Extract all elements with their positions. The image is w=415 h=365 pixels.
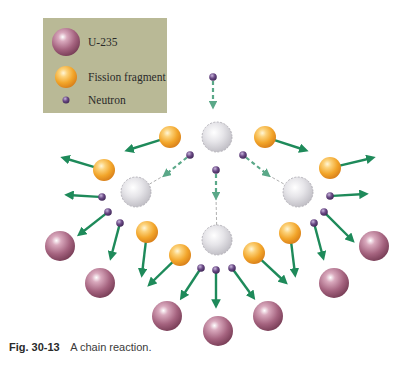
arrow: [261, 260, 285, 282]
dashed-arrow: [246, 157, 268, 175]
arrow: [142, 242, 146, 274]
caption-text: A chain reaction.: [70, 341, 151, 353]
arrow: [182, 271, 199, 297]
arrow: [68, 195, 99, 197]
fission-fragment-icon: [55, 66, 77, 88]
neutron-icon: [98, 193, 106, 201]
arrow: [315, 226, 323, 257]
splitting-nucleus-icon: [202, 225, 232, 255]
fission-fragment-icon: [254, 126, 276, 148]
legend-label-fragment: Fission fragment: [88, 71, 166, 84]
u235-nucleus-icon: [359, 231, 389, 261]
legend-label-neutron: Neutron: [88, 94, 126, 106]
figure-caption: Fig. 30-13 A chain reaction.: [9, 341, 152, 353]
arrow: [340, 158, 372, 166]
legend: U-235 Fission fragment Neutron: [43, 18, 167, 113]
splitting-nucleus-icon: [202, 122, 232, 152]
dashed-arrow: [165, 157, 187, 175]
arrow: [111, 226, 119, 257]
u235-icon: [52, 28, 80, 56]
arrow: [128, 140, 160, 150]
u235-nucleus-icon: [45, 231, 75, 261]
chain-reaction-diagram: U-235 Fission fragment Neutron: [0, 0, 415, 365]
u235-nucleus-icon: [203, 316, 233, 346]
splitting-nucleus-icon: [121, 177, 151, 207]
neutron-icon: [310, 219, 318, 227]
legend-label-u235: U-235: [88, 36, 118, 48]
u235-nucleus-icon: [253, 301, 283, 331]
fission-fragment-icon: [136, 221, 158, 243]
fission-fragment-icon: [279, 222, 301, 244]
arrow: [275, 140, 305, 150]
arrow: [64, 158, 94, 167]
neutron-icon: [320, 208, 328, 216]
neutron-icon: [239, 151, 247, 159]
arrow: [80, 214, 106, 234]
splitting-nucleus-icon: [283, 177, 313, 207]
arrow: [291, 243, 295, 274]
arrow: [326, 214, 352, 240]
u235-nucleus-icon: [152, 301, 182, 331]
neutron-icon: [63, 97, 70, 104]
neutron-icon: [228, 264, 236, 272]
fission-fragment-icon: [319, 157, 341, 179]
figure-number: Fig. 30-13: [9, 341, 60, 353]
neutron-icon: [116, 219, 124, 227]
fission-fragment-icon: [93, 159, 115, 181]
arrow: [234, 270, 253, 297]
neutron-icon: [186, 151, 194, 159]
fission-fragment-icon: [243, 242, 265, 264]
u235-nucleus-icon: [85, 268, 115, 298]
arrow: [150, 262, 173, 284]
arrow: [333, 194, 365, 196]
neutron-icon: [209, 73, 217, 81]
fission-fragment-icon: [169, 244, 191, 266]
neutron-icon: [212, 166, 220, 174]
neutron-icon: [104, 208, 112, 216]
neutron-icon: [212, 266, 220, 274]
fission-fragment-icon: [159, 126, 181, 148]
neutron-icon: [197, 264, 205, 272]
neutron-icon: [326, 192, 334, 200]
u235-nucleus-icon: [319, 268, 349, 298]
